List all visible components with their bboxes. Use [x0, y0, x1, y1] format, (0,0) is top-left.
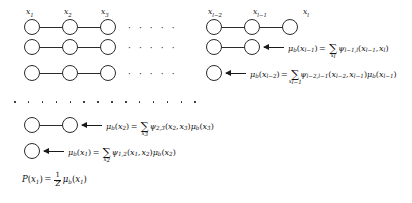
message-equation-row-2: μb(xl−1)=∑xlψl−1,l(xl−1, xl) [288, 43, 389, 54]
graph-node [24, 117, 40, 133]
node-label-xlm2: xl−2 [208, 8, 222, 18]
message-equation-row-4: μb(x2)=∑x3ψ2,3(x2, x3)μb(x3) [106, 121, 214, 132]
graph-node [62, 39, 78, 55]
ellipsis-dot [111, 101, 113, 103]
graph-node [206, 39, 222, 55]
message-arrow [44, 151, 64, 152]
graph-node [62, 19, 78, 35]
message-equation-row-5: μb(x1)=∑x2ψ1,2(x1, x2)μb(x2) [68, 147, 176, 158]
ellipsis-dot [56, 101, 58, 103]
ellipsis-dot [70, 101, 72, 103]
graph-node [24, 19, 40, 35]
graph-node [24, 143, 40, 159]
ellipsis-dot [167, 101, 169, 103]
graph-node [282, 19, 298, 35]
chain-row-3: · · · · · μb(xl−2)=∑xl−1ψl−2,l−1(xl−2, x… [0, 64, 412, 94]
graph-node [206, 65, 222, 81]
message-arrow [264, 47, 284, 48]
ellipsis-dot [83, 101, 85, 103]
node-label-x2: x2 [64, 8, 72, 18]
graph-node [244, 19, 260, 35]
ellipsis-dot [28, 101, 30, 103]
vertical-ellipsis-band [14, 99, 196, 105]
ellipsis-dot [42, 101, 44, 103]
graph-node [100, 39, 116, 55]
node-label-x1: x1 [26, 8, 34, 18]
chain-row-1: x1 x2 x3 xl−2 xl−1 xl · · · · · [0, 8, 412, 38]
graph-node [62, 65, 78, 81]
graph-node [24, 39, 40, 55]
node-label-xlm1: xl−1 [253, 8, 267, 18]
graph-node [206, 19, 222, 35]
graph-node [244, 39, 260, 55]
graph-node [100, 65, 116, 81]
ellipsis-dot [194, 101, 196, 103]
chain-row-6: P(x1)=1Zμb(x1) [0, 168, 412, 192]
message-passing-figure: x1 x2 x3 xl−2 xl−1 xl · · · · · · · · · … [0, 0, 412, 203]
graph-node [24, 65, 40, 81]
inline-ellipsis: · · · · · [128, 70, 177, 79]
ellipsis-dot [181, 101, 183, 103]
graph-node [100, 19, 116, 35]
message-equation-row-3: μb(xl−2)=∑xl−1ψl−2,l−1(xl−2, xl−1)μb(xl−… [250, 69, 397, 80]
ellipsis-dot [153, 101, 155, 103]
message-arrow [226, 73, 246, 74]
final-equation: P(x1)=1Zμb(x1) [22, 172, 87, 188]
ellipsis-dot [97, 101, 99, 103]
inline-ellipsis: · · · · · [128, 24, 177, 33]
inline-ellipsis: · · · · · [128, 44, 177, 53]
message-arrow [82, 125, 102, 126]
graph-node [62, 117, 78, 133]
node-label-x3: x3 [101, 8, 109, 18]
node-label-xl: xl [303, 8, 309, 18]
ellipsis-dot [14, 101, 16, 103]
ellipsis-dot [139, 101, 141, 103]
ellipsis-dot [125, 101, 127, 103]
